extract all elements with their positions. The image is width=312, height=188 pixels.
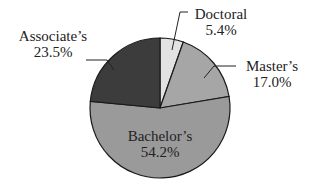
label-masters: Master’s 17.0%: [234, 58, 310, 90]
label-bachelors-name: Bachelor’s: [110, 128, 210, 144]
label-associates-name: Associate’s: [8, 28, 98, 44]
label-doctoral-pct: 5.4%: [186, 22, 256, 38]
label-doctoral-name: Doctoral: [186, 6, 256, 22]
label-bachelors: Bachelor’s 54.2%: [110, 128, 210, 160]
label-associates: Associate’s 23.5%: [8, 28, 98, 60]
label-doctoral: Doctoral 5.4%: [186, 6, 256, 38]
slice-associates: [90, 38, 160, 108]
label-associates-pct: 23.5%: [8, 44, 98, 60]
label-masters-pct: 17.0%: [234, 74, 310, 90]
label-masters-name: Master’s: [234, 58, 310, 74]
label-bachelors-pct: 54.2%: [110, 144, 210, 160]
